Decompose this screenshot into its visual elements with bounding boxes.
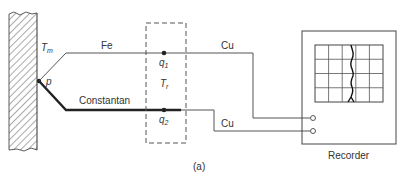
label-tr: Tr bbox=[160, 78, 169, 90]
wall bbox=[9, 12, 37, 151]
terminal-bottom bbox=[311, 129, 316, 134]
label-p: p bbox=[45, 76, 52, 87]
label-q2: q2 bbox=[159, 114, 169, 126]
label-fe: Fe bbox=[101, 40, 113, 51]
label-cu-bottom: Cu bbox=[221, 118, 234, 129]
label-cu-top: Cu bbox=[221, 40, 234, 51]
recorder bbox=[302, 31, 396, 144]
thermocouple-diagram: Tm p Fe Constantan q1 Tr q2 Cu Cu Record… bbox=[0, 0, 407, 188]
cu-lead-top bbox=[253, 53, 310, 118]
label-recorder: Recorder bbox=[328, 150, 370, 161]
figure-caption: (a) bbox=[193, 161, 205, 172]
label-constantan: Constantan bbox=[79, 95, 130, 106]
junction-q1-dot bbox=[162, 51, 167, 56]
label-tm: Tm bbox=[41, 42, 53, 54]
junction-q2-dot bbox=[162, 108, 167, 113]
label-q1: q1 bbox=[159, 57, 169, 69]
recorder-chart-grid bbox=[315, 45, 383, 102]
terminal-top bbox=[311, 116, 316, 121]
